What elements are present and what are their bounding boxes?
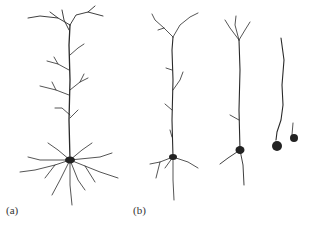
neuron-b3 (272, 38, 298, 151)
neuron-b1 (150, 13, 198, 200)
panel-label-a: (a) (6, 204, 18, 216)
panel-label-b: (b) (133, 204, 146, 216)
figure: (a) (b) (0, 0, 315, 237)
neuron-drawings (0, 0, 315, 237)
neuron-a (20, 6, 118, 205)
neuron-b2 (220, 16, 250, 185)
